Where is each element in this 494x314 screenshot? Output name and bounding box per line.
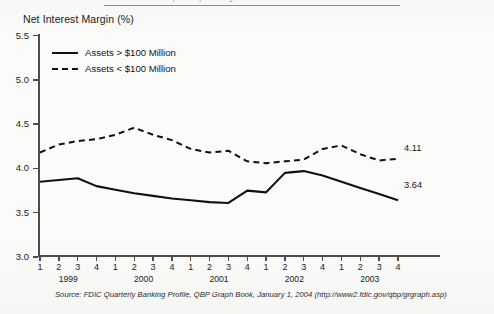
legend-item-assets-under-100m: Assets < $100 Million [52, 61, 176, 75]
x-axis-year-label: 2000 [120, 274, 168, 284]
x-axis-tick [39, 255, 40, 261]
x-axis-tick [360, 255, 361, 261]
y-axis-tick [33, 79, 38, 80]
y-axis-label: 4.5 [2, 118, 29, 129]
x-axis-quarter-label: 3 [69, 262, 87, 272]
y-axis-tick [33, 123, 38, 124]
x-axis-quarter-label: 1 [332, 262, 350, 272]
x-axis-quarter-label: 4 [238, 262, 256, 272]
x-axis-quarter-label: 2 [50, 262, 68, 272]
y-axis-label: 4.0 [2, 162, 29, 173]
legend-label-assets-over-100m: Assets > $100 Million [85, 47, 176, 58]
legend-label-assets-under-100m: Assets < $100 Million [85, 63, 176, 74]
x-axis-year-label: 2001 [195, 274, 243, 284]
x-axis-tick [171, 255, 172, 261]
y-axis-tick [33, 168, 38, 169]
end-label-assets-over-100m: 3.64 [404, 180, 422, 190]
x-axis-quarter-label: 2 [201, 262, 219, 272]
chart-title: Net Interest Margin (%) [23, 13, 134, 25]
x-axis-quarter-label: 3 [295, 262, 313, 272]
cropped-header-text: FDIC Quarterly Banking Profile [150, 0, 258, 1]
x-axis-tick [341, 255, 342, 261]
y-axis-line [38, 34, 40, 257]
x-axis-tick [378, 255, 379, 261]
legend-item-assets-over-100m: Assets > $100 Million [52, 45, 176, 59]
legend: Assets > $100 Million Assets < $100 Mill… [52, 45, 176, 77]
x-axis-year-label: 2003 [346, 274, 394, 284]
x-axis-quarter-label: 1 [31, 262, 49, 272]
y-axis-label: 5.5 [2, 30, 29, 41]
legend-dashed-line-icon [52, 64, 78, 73]
line-assets-under-100m [40, 128, 398, 163]
x-axis-tick [322, 255, 323, 261]
y-axis-tick [33, 212, 38, 213]
x-axis-quarter-label: 4 [314, 262, 332, 272]
x-axis-tick [58, 255, 59, 261]
x-axis-quarter-label: 3 [219, 262, 237, 272]
x-axis-quarter-label: 1 [106, 262, 124, 272]
x-axis-tick [77, 255, 78, 261]
y-axis-label: 5.0 [2, 74, 29, 85]
x-axis-quarter-label: 3 [370, 262, 388, 272]
x-axis-quarter-label: 1 [182, 262, 200, 272]
x-axis-quarter-label: 2 [351, 262, 369, 272]
x-axis-tick [247, 255, 248, 261]
y-axis-tick [33, 256, 38, 257]
x-axis-tick [209, 255, 210, 261]
end-label-assets-under-100m: 4.11 [404, 143, 421, 153]
x-axis-quarter-label: 4 [163, 262, 181, 272]
y-axis-tick [33, 35, 38, 36]
x-axis-quarter-label: 3 [144, 262, 162, 272]
x-axis-quarter-label: 1 [257, 262, 275, 272]
source-note: Source: FDIC Quarterly Banking Profile, … [55, 290, 447, 299]
x-axis-tick [115, 255, 116, 261]
x-axis-tick [134, 255, 135, 261]
y-axis-label: 3.0 [2, 251, 29, 262]
x-axis-tick [190, 255, 191, 261]
legend-solid-line-icon [52, 48, 78, 57]
x-axis-quarter-label: 4 [389, 262, 407, 272]
chart-page: FDIC Quarterly Banking Profile Net Inter… [0, 0, 494, 314]
x-axis-quarter-label: 2 [125, 262, 143, 272]
x-axis-tick [397, 255, 398, 261]
x-axis-quarter-label: 2 [276, 262, 294, 272]
x-axis-year-label: 1999 [44, 274, 92, 284]
header-rule [104, 5, 400, 6]
x-axis-tick [265, 255, 266, 261]
x-axis-tick [96, 255, 97, 261]
x-axis-tick [284, 255, 285, 261]
y-axis-label: 3.5 [2, 207, 29, 218]
x-axis-tick [303, 255, 304, 261]
cropped-header-line: FDIC Quarterly Banking Profile [0, 0, 494, 7]
x-axis-tick [152, 255, 153, 261]
x-axis-tick [228, 255, 229, 261]
line-assets-over-100m [40, 171, 398, 203]
x-axis-quarter-label: 4 [88, 262, 106, 272]
x-axis-year-label: 2002 [270, 274, 318, 284]
